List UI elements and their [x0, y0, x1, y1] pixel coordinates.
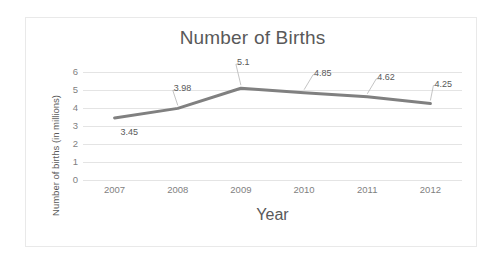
chart-screenshot: Number of Births Number of births (in mi… [0, 0, 499, 264]
y-tick-label: 1 [62, 157, 78, 167]
data-label: 4.85 [314, 69, 332, 78]
y-axis-title: Number of births (in millions) [50, 66, 61, 246]
x-tick-label: 2007 [93, 185, 137, 195]
x-axis-tick-labels: 200720082009201020112012 [83, 185, 462, 199]
x-tick-label: 2009 [219, 185, 263, 195]
data-label: 3.98 [174, 84, 192, 93]
y-axis-tick-labels: 0123456 [60, 72, 78, 180]
y-tick-label: 3 [62, 121, 78, 131]
x-axis-title: Year [83, 206, 462, 224]
x-tick-label: 2010 [282, 185, 326, 195]
data-label: 4.25 [434, 80, 452, 89]
x-tick-label: 2008 [156, 185, 200, 195]
y-tick-label: 2 [62, 139, 78, 149]
data-label: 5.1 [237, 58, 250, 67]
x-tick-label: 2011 [345, 185, 389, 195]
gridline [83, 180, 462, 181]
data-label: 3.45 [121, 128, 139, 137]
y-tick-label: 4 [62, 103, 78, 113]
data-label: 4.62 [377, 73, 395, 82]
y-tick-label: 5 [62, 85, 78, 95]
x-tick-label: 2012 [408, 185, 452, 195]
births-line-series [83, 72, 462, 180]
plot-area: 3.453.985.14.854.624.25 [83, 72, 462, 180]
y-tick-label: 0 [62, 175, 78, 185]
y-tick-label: 6 [62, 67, 78, 77]
chart-title: Number of Births [60, 27, 445, 49]
